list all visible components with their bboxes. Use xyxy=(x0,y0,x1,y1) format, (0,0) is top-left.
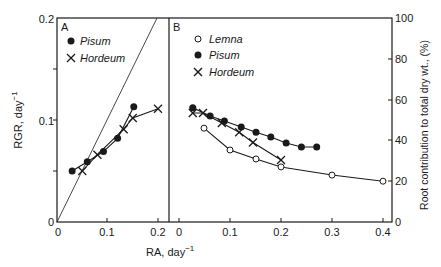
svg-text:0: 0 xyxy=(395,216,401,228)
pisum-point xyxy=(253,129,260,136)
pisum-line xyxy=(72,107,134,171)
figure: A B 0.2 0.1 0 RGR, day−1 100 80 60 40 20… xyxy=(0,0,441,267)
lemna-point xyxy=(253,156,259,162)
svg-text:80: 80 xyxy=(395,53,407,65)
pisum-point xyxy=(313,143,320,150)
series-panel-b xyxy=(189,104,386,184)
svg-text:Pisum: Pisum xyxy=(80,35,111,47)
lemna-point xyxy=(201,125,207,131)
hordeum-point xyxy=(154,105,162,113)
right-y-axis-label: Root contribution to total dry wt., (%) xyxy=(418,40,430,210)
lemna-line xyxy=(204,128,383,181)
hordeum-point xyxy=(93,151,101,159)
hordeum-point xyxy=(277,156,285,164)
lemna-marker-icon xyxy=(195,36,201,42)
x-tick-labels-b: 0 0.1 0.2 0.3 0.4 xyxy=(176,226,391,238)
svg-text:20: 20 xyxy=(395,175,407,187)
pisum-marker-icon xyxy=(68,38,75,45)
legend-b: Lemna Pisum Hordeum xyxy=(194,33,254,78)
hordeum-marker-icon xyxy=(194,68,202,76)
y-tick-0.1: 0.1 xyxy=(39,115,54,127)
pisum-point xyxy=(84,158,91,165)
x-axis-b xyxy=(179,218,383,222)
svg-text:0.2: 0.2 xyxy=(150,226,165,238)
left-y-axis-label: RGR, day−1 xyxy=(10,91,24,149)
pisum-point xyxy=(69,168,76,175)
svg-text:0.4: 0.4 xyxy=(375,226,390,238)
lemna-point xyxy=(380,178,386,184)
svg-text:40: 40 xyxy=(395,134,407,146)
left-y-tick-labels: 0.2 0.1 0 xyxy=(39,13,54,228)
series-panel-a xyxy=(69,103,162,175)
svg-text:0: 0 xyxy=(176,226,182,238)
pisum-point xyxy=(130,103,137,110)
hordeum-point xyxy=(129,114,137,122)
pisum-point xyxy=(283,140,290,147)
svg-text:0.1: 0.1 xyxy=(99,226,114,238)
svg-text:Hordeum: Hordeum xyxy=(209,66,254,78)
hordeum-marker-icon xyxy=(67,54,75,62)
right-y-tick-labels: 100 80 60 40 20 0 xyxy=(395,12,413,228)
y-tick-0.2: 0.2 xyxy=(39,13,54,25)
svg-text:Hordeum: Hordeum xyxy=(80,52,125,64)
pisum-point xyxy=(298,143,305,150)
svg-text:0: 0 xyxy=(55,226,61,238)
lemna-point xyxy=(329,172,335,178)
lemna-point xyxy=(227,147,233,153)
svg-text:0.3: 0.3 xyxy=(324,226,339,238)
panel-a-label: A xyxy=(61,21,69,33)
y-tick-0: 0 xyxy=(48,216,54,228)
x-axis-label: RA, day−1 xyxy=(146,244,195,258)
lemna-point xyxy=(278,164,284,170)
pisum-marker-icon xyxy=(195,52,202,59)
reference-line-1-to-1 xyxy=(57,18,157,222)
x-axis-a xyxy=(107,218,158,222)
svg-text:0.1: 0.1 xyxy=(222,226,237,238)
svg-text:60: 60 xyxy=(395,94,407,106)
svg-text:Pisum: Pisum xyxy=(209,49,240,61)
svg-text:0.2: 0.2 xyxy=(273,226,288,238)
legend-a: Pisum Hordeum xyxy=(67,35,125,64)
x-tick-labels-a: 0 0.1 0.2 xyxy=(55,226,166,238)
svg-text:100: 100 xyxy=(395,12,413,24)
pisum-point xyxy=(267,133,274,140)
hordeum-point xyxy=(78,167,86,175)
panel-b-label: B xyxy=(173,21,180,33)
svg-text:Lemna: Lemna xyxy=(209,33,243,45)
pisum-point xyxy=(114,135,121,142)
hordeum-point xyxy=(249,138,257,146)
